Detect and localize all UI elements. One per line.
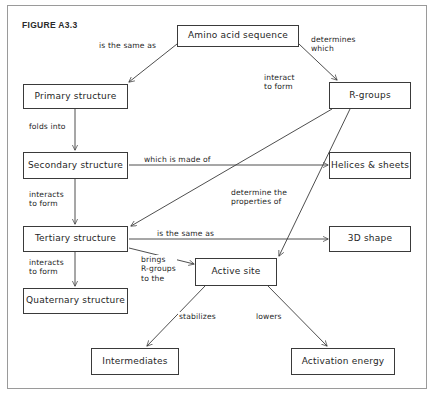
node-secondary-structure[interactable]: Secondary structure xyxy=(23,152,128,179)
figure-concept-map: FIGURE A3.3 Amino xyxy=(0,0,435,396)
edge-label-is-the-same-as-primary: is the same as xyxy=(98,41,157,50)
edge-label-which-is-made-of: which is made of xyxy=(143,155,212,164)
node-intermediates-label: Intermediates xyxy=(102,357,167,367)
node-3d-shape[interactable]: 3D shape xyxy=(329,226,411,252)
node-activation-energy[interactable]: Activation energy xyxy=(291,348,395,375)
edge-label-interact-to-form: interact to form xyxy=(263,73,296,92)
node-tertiary-structure-label: Tertiary structure xyxy=(35,234,116,244)
edge-label-determine-the-properties-of: determine the properties of xyxy=(230,188,288,207)
node-quaternary-structure-label: Quaternary structure xyxy=(26,296,125,306)
node-quaternary-structure[interactable]: Quaternary structure xyxy=(23,288,128,314)
node-amino-acid-sequence-label: Amino acid sequence xyxy=(188,31,288,41)
edge-connector-layer xyxy=(0,0,435,396)
node-3d-shape-label: 3D shape xyxy=(348,234,392,244)
node-r-groups-label: R-groups xyxy=(349,91,391,101)
node-active-site-label: Active site xyxy=(211,267,260,277)
node-helices-and-sheets-label: Helices & sheets xyxy=(331,161,409,171)
edge-label-stabilizes: stabilizes xyxy=(178,312,217,321)
node-r-groups[interactable]: R-groups xyxy=(329,82,411,109)
edge-label-brings-r-groups-to-the: brings R-groups to the xyxy=(140,255,177,283)
edge-label-determines-which: determines which xyxy=(310,35,357,54)
node-tertiary-structure[interactable]: Tertiary structure xyxy=(23,226,128,252)
node-active-site[interactable]: Active site xyxy=(195,258,277,286)
edge-label-lowers: lowers xyxy=(255,312,283,321)
edge-label-interacts-to-form-quaternary: interacts to form xyxy=(28,258,65,277)
node-secondary-structure-label: Secondary structure xyxy=(28,161,123,171)
node-primary-structure[interactable]: Primary structure xyxy=(23,84,128,109)
node-intermediates[interactable]: Intermediates xyxy=(91,348,179,375)
node-primary-structure-label: Primary structure xyxy=(35,92,117,102)
node-activation-energy-label: Activation energy xyxy=(302,357,385,367)
node-helices-and-sheets[interactable]: Helices & sheets xyxy=(329,152,411,179)
edge-label-is-the-same-as-3d: is the same as xyxy=(156,229,215,238)
edge-label-folds-into: folds into xyxy=(28,122,67,131)
node-amino-acid-sequence[interactable]: Amino acid sequence xyxy=(177,25,299,47)
edge-label-interacts-to-form-tertiary: interacts to form xyxy=(28,190,65,209)
